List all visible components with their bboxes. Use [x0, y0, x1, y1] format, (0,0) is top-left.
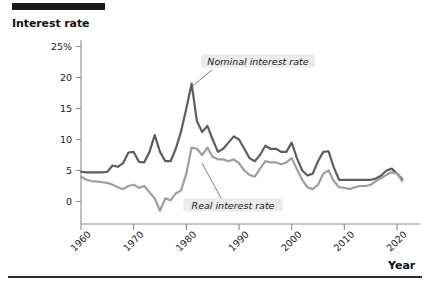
bottom-rule-decoration [8, 276, 422, 278]
figure-panel: Interest rate 0510152025%196019701980199… [0, 0, 430, 285]
real-annotation-label: Real interest rate [192, 200, 275, 211]
y-tick-label: 20 [60, 72, 72, 83]
nominal-annotation-label: Nominal interest rate [207, 56, 308, 67]
x-tick-label: 1960 [68, 229, 93, 254]
interest-rate-line-chart: 0510152025%1960197019801990200020102020N… [0, 0, 430, 285]
x-tick-label: 1970 [121, 229, 146, 254]
x-tick-label: 2020 [384, 229, 409, 254]
y-tick-label: 15 [60, 103, 72, 114]
y-tick-label: 5 [66, 165, 72, 176]
real-annotation-leader-line [202, 163, 222, 200]
nominal-annotation-leader-line [190, 70, 212, 88]
x-tick-label: 2000 [279, 229, 304, 254]
x-axis-title: Year [388, 259, 415, 272]
x-tick-label: 2010 [331, 229, 356, 254]
y-tick-label: 10 [60, 134, 72, 145]
x-tick-label: 1980 [173, 229, 198, 254]
x-tick-label: 1990 [226, 229, 251, 254]
y-tick-label: 25% [51, 41, 72, 52]
y-tick-label: 0 [66, 196, 72, 207]
